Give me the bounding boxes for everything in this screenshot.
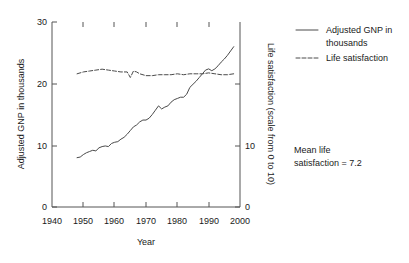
y2-ticklabel-10: 10 <box>245 141 255 151</box>
y-ticklabel-10: 10 <box>37 141 47 151</box>
y-axis-title-left: Adjusted GNP in thousands <box>16 58 26 169</box>
legend-label-adjusted-gnp-line1: Adjusted GNP in <box>326 25 392 35</box>
y-ticklabel-30: 30 <box>37 17 47 27</box>
x-ticklabel-1950: 1950 <box>73 216 93 226</box>
annotation-line-1: Mean life <box>294 145 331 155</box>
x-ticklabel-1990: 1990 <box>199 216 219 226</box>
y-ticklabel-20: 20 <box>37 79 47 89</box>
legend-label-life-satisfaction: Life satisfaction <box>326 53 388 63</box>
x-ticklabel-1940: 1940 <box>42 216 62 226</box>
legend-label-adjusted-gnp-line2: thousands <box>326 38 368 48</box>
chart-figure: 30 20 10 0 Adjusted GNP in thousands 10 … <box>0 0 409 263</box>
x-ticklabel-1960: 1960 <box>104 216 124 226</box>
x-ticklabel-1970: 1970 <box>136 216 156 226</box>
y2-ticklabel-0: 0 <box>245 202 250 212</box>
y-axis-title-right: Life satisfaction (scale from 0 to 10) <box>266 43 276 185</box>
x-ticklabel-1980: 1980 <box>167 216 187 226</box>
annotation-line-2: satisfaction = 7.2 <box>294 158 362 168</box>
y-ticklabel-0: 0 <box>42 202 47 212</box>
x-ticklabel-2000: 2000 <box>230 216 250 226</box>
gnp-life-satisfaction-chart: 30 20 10 0 Adjusted GNP in thousands 10 … <box>0 0 409 263</box>
x-axis-title: Year <box>137 237 155 247</box>
